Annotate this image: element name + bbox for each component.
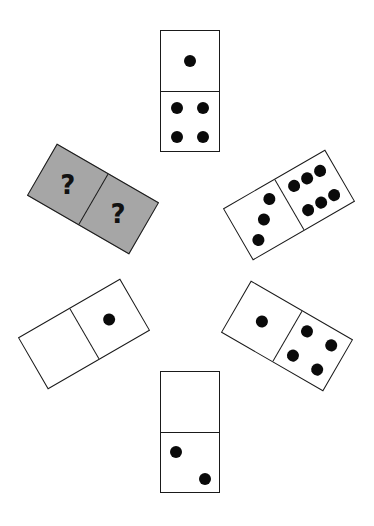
question-mark-icon: ? — [60, 169, 75, 199]
question-mark-icon: ? — [111, 199, 126, 229]
domino-bottom — [160, 371, 220, 493]
pip — [250, 232, 266, 248]
pip — [286, 178, 302, 194]
domino-bottom-half-2 — [161, 433, 219, 493]
domino-lower-left — [18, 279, 150, 390]
pip — [299, 170, 315, 186]
pip — [313, 194, 329, 210]
domino-upper-left-unknown: ? ? — [27, 144, 159, 255]
pip — [171, 131, 183, 143]
domino-top — [160, 30, 220, 152]
pip — [171, 102, 183, 114]
pip — [101, 311, 117, 327]
pip — [255, 211, 271, 227]
pip — [312, 163, 328, 179]
domino-upper-right — [223, 150, 355, 261]
pip — [261, 191, 277, 207]
domino-bottom-half-0 — [161, 372, 219, 433]
pip — [184, 55, 196, 67]
domino-top-half-4 — [161, 92, 219, 152]
pip — [326, 187, 342, 203]
pip — [170, 446, 182, 458]
pip — [300, 202, 316, 218]
pip — [197, 102, 209, 114]
pip — [309, 361, 325, 377]
domino-lower-right — [221, 281, 353, 392]
pip — [285, 348, 301, 364]
pip — [323, 337, 339, 353]
pip — [199, 473, 211, 485]
pip — [197, 131, 209, 143]
pip — [253, 313, 269, 329]
pip — [299, 323, 315, 339]
domino-top-half-1 — [161, 31, 219, 92]
